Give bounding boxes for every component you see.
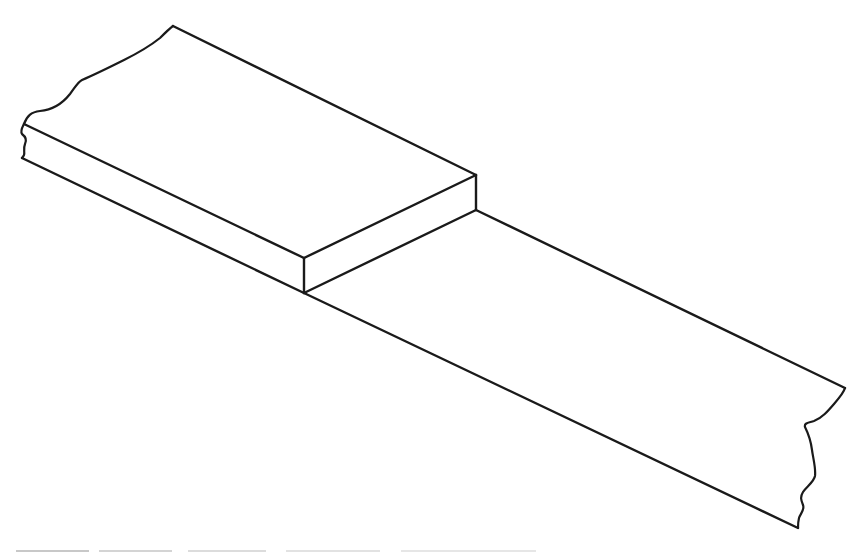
side-break-line — [21, 124, 26, 158]
top-face-end-edge — [304, 175, 476, 258]
end-face-bottom-edge — [304, 210, 476, 293]
lap-joint-figure — [0, 0, 867, 553]
thin-strip — [304, 210, 845, 528]
thick-plate — [21, 26, 476, 293]
strip-front-edge — [304, 293, 798, 528]
caption-text-fragment — [16, 550, 536, 552]
top-face-back-edge — [173, 26, 476, 175]
strip-break-line — [798, 388, 845, 528]
front-side-bottom-edge — [22, 158, 304, 293]
strip-back-edge — [476, 210, 845, 388]
figure-caption-cropped — [16, 549, 536, 553]
top-face-front-edge — [24, 124, 304, 258]
top-face-break-line — [24, 26, 173, 124]
